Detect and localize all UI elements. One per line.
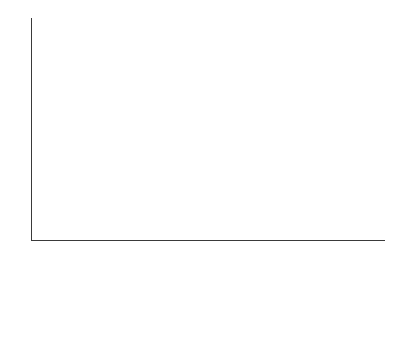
category-label-row-1 [31, 241, 385, 256]
stacked-bar-chart [0, 0, 402, 347]
plot-area [31, 18, 385, 240]
chart-legend [263, 292, 402, 294]
category-label-row-3 [31, 271, 385, 286]
category-label-row-2 [31, 256, 385, 271]
category-labels [31, 241, 385, 289]
bar-group [32, 18, 385, 240]
